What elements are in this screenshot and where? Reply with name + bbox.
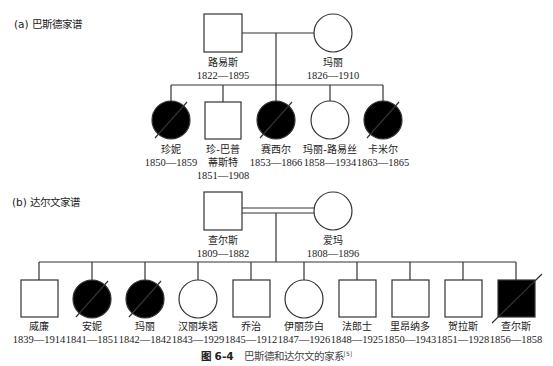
person-label: 里昂纳多 1850—1943 [384, 320, 437, 346]
female-symbol-henrietta [179, 280, 217, 318]
person-label: 贺拉斯 1851—1928 [437, 320, 490, 346]
female-symbol-marie [314, 14, 352, 52]
male-symbol-francis [339, 280, 376, 317]
male-symbol-jean-baptiste [205, 102, 241, 139]
person-label: 乔治 1845—1912 [225, 320, 278, 346]
person-label: 威廉 1839—1914 [13, 320, 66, 346]
person-label: 赛西尔 1853—1866 [250, 143, 303, 169]
person-label: 伊丽莎白 1847—1926 [278, 320, 331, 346]
person-label: 玛丽 1842—1842 [119, 320, 172, 346]
person-label: 法郎士 1848—1925 [331, 320, 384, 346]
male-symbol-charles [204, 192, 242, 230]
person-label: 查尔斯 1809—1882 [197, 234, 250, 260]
caption-text: 巴斯德和达尔文的家系 [244, 350, 344, 362]
person-label: 珍-巴普 蒂斯特 1851—1908 [197, 143, 250, 182]
pedigree-canvas [0, 0, 553, 366]
figure-caption: 图 6-4巴斯德和达尔文的家系[5] [0, 348, 553, 363]
citation-ref: [5] [344, 350, 353, 357]
female-symbol-emma [314, 192, 352, 230]
pedigree-b-title: (b) 达尔文家谱 [12, 194, 80, 209]
male-symbol-louis [204, 14, 242, 52]
person-label: 卡米尔 1863—1865 [357, 143, 410, 169]
person-label: 玛丽 1826—1910 [307, 56, 360, 82]
male-symbol-leonard [392, 280, 429, 317]
person-label: 安妮 1841—1851 [66, 320, 119, 346]
male-symbol-horace [445, 280, 482, 317]
person-label: 玛丽-路易丝 1858—1934 [303, 143, 357, 169]
person-label: 汉丽埃塔 1843—1929 [172, 320, 225, 346]
person-label: 路易斯 1822—1895 [197, 56, 250, 82]
person-label: 查尔斯 1856—1858 [490, 320, 543, 346]
person-label: 爱玛 1808—1896 [307, 234, 360, 260]
male-symbol-george [233, 280, 270, 317]
person-label: 珍妮 1850—1859 [145, 143, 198, 169]
pedigree-a-title: (a) 巴斯德家谱 [14, 16, 82, 31]
male-symbol-william [21, 280, 58, 317]
female-symbol-marie-louise [311, 101, 349, 139]
figure-number: 图 6-4 [201, 350, 234, 362]
female-symbol-elizabeth [285, 280, 323, 318]
